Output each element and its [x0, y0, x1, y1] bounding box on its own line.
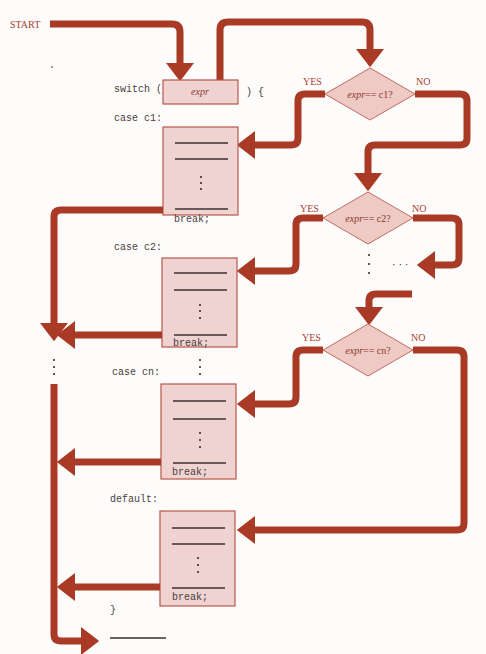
- stray-dot: [51, 66, 53, 68]
- default-label: default:: [110, 494, 158, 505]
- into-decision-cn-arrow: [369, 294, 412, 314]
- switch-expr: expr: [191, 86, 209, 97]
- case-c1-break: break;: [174, 214, 210, 225]
- decision-c1-yes: YES: [303, 76, 322, 87]
- exit-bus-arrow: [54, 384, 88, 641]
- decision-cn-yes: YES: [302, 332, 321, 343]
- case-cn-break: break;: [172, 467, 208, 478]
- case-c2-break: break;: [173, 338, 209, 349]
- yes-c1-arrow: [248, 94, 325, 145]
- no-cn-arrow: [248, 350, 464, 530]
- case-cn-label: case cn:: [112, 367, 160, 378]
- expr-to-decision1-arrow: [220, 22, 370, 80]
- no-c2-arrow: [413, 218, 459, 265]
- decision-cn-no: NO: [411, 332, 425, 343]
- decision-c2-text: expr== c2?: [345, 213, 391, 224]
- yes-cn-arrow: [248, 350, 323, 404]
- case-c2-block: [162, 258, 237, 347]
- case-c1-block: [163, 127, 238, 215]
- decision-c1-no: NO: [416, 76, 430, 87]
- start-label: START: [10, 19, 40, 30]
- closing-brace: }: [110, 605, 116, 616]
- case-c1-label: case c1:: [114, 113, 162, 124]
- switch-close: ) {: [246, 87, 264, 98]
- decision-cn-text: expr== cn?: [345, 345, 391, 356]
- switch-flowchart: START switch ( expr ) { expr== c1? YES N…: [0, 0, 486, 654]
- decision-c2-yes: YES: [300, 203, 319, 214]
- case-cn-block: [161, 384, 236, 479]
- decision-c2-no: NO: [412, 203, 426, 214]
- decision-c1-text: expr== c1?: [347, 89, 393, 100]
- default-break: break;: [172, 592, 208, 603]
- break-c1-arrow: [54, 210, 163, 330]
- ellipsis-horizontal: · · ·: [392, 258, 409, 270]
- yes-c2-arrow: [248, 218, 323, 271]
- switch-keyword: switch (: [114, 84, 162, 95]
- case-c2-label: case c2:: [114, 242, 162, 253]
- start-flow-arrow: [50, 24, 180, 70]
